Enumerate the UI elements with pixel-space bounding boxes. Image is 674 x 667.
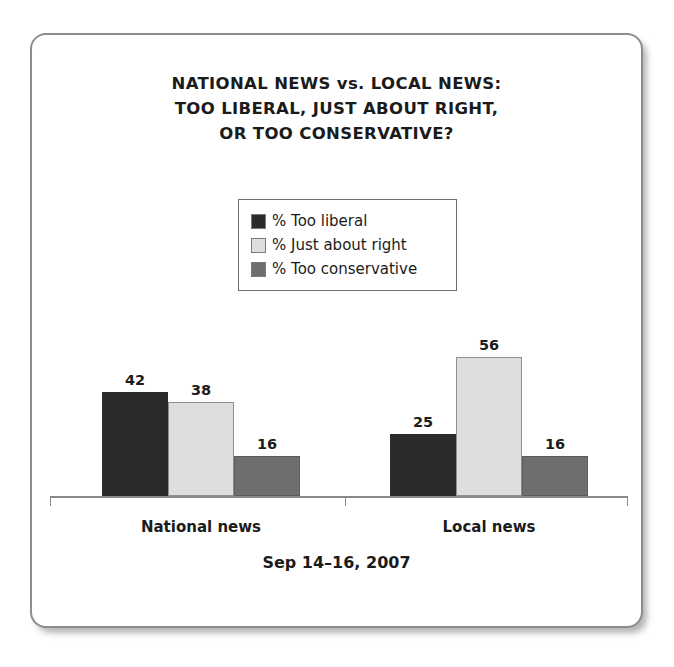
x-axis-tick-middle <box>345 496 346 506</box>
bar-national-too-liberal <box>102 392 168 496</box>
bar-value-local-too-conservative: 16 <box>522 436 588 452</box>
x-axis-tick-left <box>50 496 51 506</box>
bar-value-national-too-liberal: 42 <box>102 372 168 388</box>
bar-value-local-just-about-right: 56 <box>456 337 522 353</box>
x-axis-line <box>50 496 628 498</box>
bar-national-too-conservative <box>234 456 300 496</box>
plot-area: 42 38 16 25 56 16 National news Local ne… <box>32 35 645 630</box>
bar-value-national-too-conservative: 16 <box>234 436 300 452</box>
bar-national-just-about-right <box>168 402 234 496</box>
bar-local-just-about-right <box>456 357 522 496</box>
x-axis-label-local-news: Local news <box>390 518 588 536</box>
bar-local-too-conservative <box>522 456 588 496</box>
bar-local-too-liberal <box>390 434 456 496</box>
chart-card: NATIONAL NEWS vs. LOCAL NEWS: TOO LIBERA… <box>30 33 643 628</box>
date-range-note: Sep 14–16, 2007 <box>32 553 641 572</box>
bar-value-local-too-liberal: 25 <box>390 414 456 430</box>
bar-value-national-just-about-right: 38 <box>168 382 234 398</box>
x-axis-label-national-news: National news <box>102 518 300 536</box>
x-axis-tick-right <box>627 496 628 506</box>
